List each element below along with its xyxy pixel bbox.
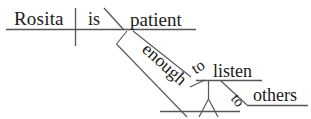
predicate-adjective-slant: [104, 8, 124, 30]
pedestal-leg-right: [209, 99, 219, 117]
word-subject: Rosita: [14, 9, 64, 28]
adverb-hook-upper: [117, 31, 128, 44]
word-infinitive-verb: listen: [213, 62, 252, 80]
word-verb: is: [88, 10, 100, 28]
word-predicate-adjective: patient: [130, 10, 182, 29]
word-prepositional-object: others: [253, 86, 297, 104]
pedestal-leg-left: [199, 99, 209, 117]
sentence-diagram: Rosita is patient enough to listen to ot…: [0, 0, 311, 119]
